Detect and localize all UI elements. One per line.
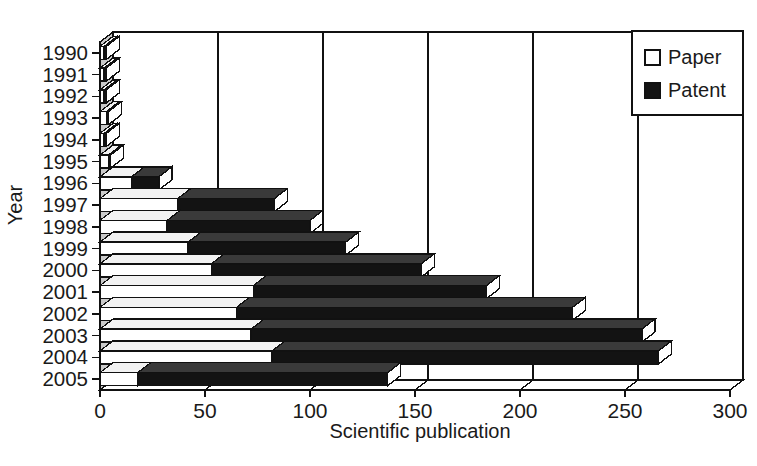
bar-segment — [178, 189, 288, 212]
bar-row — [100, 189, 287, 212]
bar-segment — [253, 276, 499, 299]
legend-frame — [632, 31, 743, 115]
bar-segment — [100, 319, 264, 342]
y-tick-label: 1992 — [42, 84, 88, 107]
bar-segment — [100, 341, 285, 364]
legend-swatch-paper — [645, 50, 660, 65]
bar-segment — [211, 254, 434, 277]
bar-segment — [167, 210, 323, 233]
bar-row — [100, 210, 323, 233]
y-axis-title: Year — [4, 184, 26, 225]
bar-segment — [251, 319, 655, 342]
y-tick-label: 1993 — [42, 106, 88, 129]
y-tick-label: 1990 — [42, 41, 88, 64]
bar-row — [100, 363, 401, 386]
x-axis-ticks — [100, 390, 730, 397]
y-tick-label: 1991 — [42, 63, 88, 86]
bar-segment — [100, 254, 224, 277]
bar-row — [100, 341, 672, 364]
y-tick-label: 1994 — [42, 128, 88, 151]
x-tick-label: 0 — [94, 399, 106, 422]
bar-segment — [100, 232, 201, 255]
x-tick-label: 300 — [712, 399, 747, 422]
bar-row — [100, 297, 586, 320]
bar-segment — [100, 297, 250, 320]
x-tick-label: 150 — [397, 399, 432, 422]
bar-segment — [100, 276, 266, 299]
y-tick-label: 2003 — [42, 324, 88, 347]
y-tick-label: 1998 — [42, 215, 88, 238]
bar-segment — [237, 297, 586, 320]
y-tick-label: 1997 — [42, 193, 88, 216]
chart-legend: Paper Patent — [632, 31, 743, 115]
y-tick-label: 1996 — [42, 171, 88, 194]
y-tick-label: 1995 — [42, 150, 88, 173]
legend-swatch-patent — [645, 83, 660, 98]
x-tick-label: 250 — [607, 399, 642, 422]
bar-segment — [138, 363, 401, 386]
y-tick-label: 2001 — [42, 280, 88, 303]
bar-row — [100, 319, 655, 342]
y-tick-label: 1999 — [42, 237, 88, 260]
x-axis-tick-labels: 050100150200250300 — [94, 399, 747, 422]
bar-row — [100, 232, 359, 255]
x-tick-label: 200 — [502, 399, 537, 422]
y-tick-label: 2000 — [42, 258, 88, 281]
bar-row — [100, 276, 499, 299]
x-tick-label: 100 — [292, 399, 327, 422]
y-tick-label: 2002 — [42, 302, 88, 325]
legend-label-paper: Paper — [668, 46, 722, 68]
chart-container: 050100150200250300 199019911992199319941… — [0, 0, 757, 466]
legend-label-patent: Patent — [668, 79, 726, 101]
bar-row — [100, 167, 172, 190]
x-axis-title: Scientific publication — [329, 420, 510, 442]
bar-row — [100, 254, 434, 277]
x-tick-label: 50 — [193, 399, 216, 422]
y-tick-label: 2004 — [42, 345, 88, 368]
bar-segment — [188, 232, 359, 255]
stacked-bar-chart: 050100150200250300 199019911992199319941… — [0, 0, 757, 466]
y-tick-label: 2005 — [42, 367, 88, 390]
bar-segment — [272, 341, 671, 364]
y-axis-tick-labels: 1990199119921993199419951996199719981999… — [42, 41, 88, 390]
